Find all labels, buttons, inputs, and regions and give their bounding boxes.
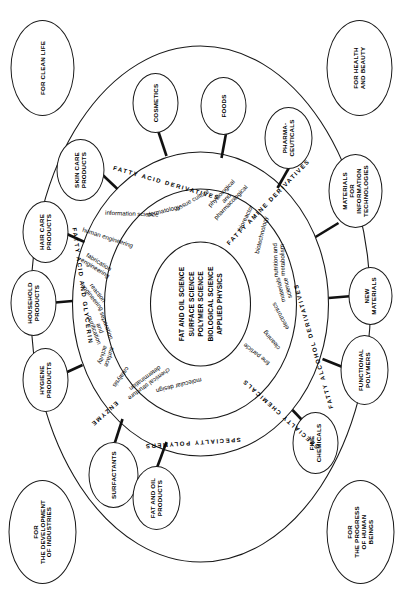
satellite-functional-polymers-label: FUNCTIONAL POLYMERS xyxy=(357,347,371,393)
satellite-cosmetics-label: COSMETICS xyxy=(152,82,159,125)
satellite-pharmaceuticals-label: PHARMA- CEUTICALS xyxy=(281,117,295,158)
satellite-materials-for-it[interactable]: MATERIALS FOR INFORMATION TECHNOLOGIES xyxy=(328,154,382,228)
satellite-foods-label: FOODS xyxy=(220,93,227,120)
connector-cosmetics xyxy=(157,129,166,156)
satellite-new-materials-label: NEW MATERIALS xyxy=(363,275,377,316)
connector-materials-for-it xyxy=(315,223,338,237)
satellite-cosmetics[interactable]: COSMETICS xyxy=(132,73,178,133)
satellite-functional-polymers[interactable]: FUNCTIONAL POLYMERS xyxy=(340,335,388,405)
satellite-hygiene-products-label: HYGIENE PRODUCTS xyxy=(38,360,52,400)
satellite-hair-care-products-label: HAIR CARE PRODUCTS xyxy=(38,212,52,252)
satellite-hygiene-products[interactable]: HYGIENE PRODUCTS xyxy=(22,348,68,412)
satellite-skin-care-products-label: SKIN CARE PRODUCTS xyxy=(73,150,87,190)
core-sciences: FAT AND OIL SCIENCE SURFACE SCIENCE POLY… xyxy=(150,242,250,366)
mid-label-nutrition-metabolism: nutrition and metabolism xyxy=(271,230,286,290)
corner-progress-of-human-beings[interactable]: FOR THE PROGRESS OF HUMAN BEINGS xyxy=(326,480,394,584)
satellite-skin-care-products[interactable]: SKIN CARE PRODUCTS xyxy=(56,139,104,201)
satellite-fat-and-oil-products[interactable]: FAT AND OIL PRODUCTS xyxy=(132,466,180,530)
satellite-new-materials[interactable]: NEW MATERIALS xyxy=(348,267,392,325)
corner-health-and-beauty-label: FOR HEALTH AND BEAUTY xyxy=(352,45,366,92)
satellite-foods[interactable]: FOODS xyxy=(200,77,246,135)
corner-progress-of-human-beings-label: FOR THE PROGRESS OF HUMAN BEINGS xyxy=(346,504,374,560)
satellite-hair-care-products[interactable]: HAIR CARE PRODUCTS xyxy=(22,201,68,263)
corner-clean-life-label: FOR CLEAN LIFE xyxy=(39,39,46,97)
connector-foods xyxy=(221,131,226,158)
satellite-household-products[interactable]: HOUSEHOLD PRODUCTS xyxy=(10,270,56,336)
corner-health-and-beauty[interactable]: FOR HEALTH AND BEAUTY xyxy=(326,20,392,116)
satellite-surfactants[interactable]: SURFACTANTS xyxy=(88,442,138,508)
corner-development-of-industries-label: FOR THE DEVELOPMENT OF INDUSTRIES xyxy=(32,498,53,566)
core-sciences-text: FAT AND OIL SCIENCE SURFACE SCIENCE POLY… xyxy=(176,266,224,341)
corner-clean-life[interactable]: FOR CLEAN LIFE xyxy=(10,20,74,116)
corner-development-of-industries[interactable]: FOR THE DEVELOPMENT OF INDUSTRIES xyxy=(8,480,76,584)
satellite-materials-for-it-label: MATERIALS FOR INFORMATION TECHNOLOGIES xyxy=(341,163,369,219)
diagram-canvas: FAT AND OIL SCIENCE SURFACE SCIENCE POLY… xyxy=(0,0,401,608)
satellite-household-products-label: HOUSEHOLD PRODUCTS xyxy=(26,280,40,325)
satellite-surfactants-label: SURFACTANTS xyxy=(110,449,117,501)
satellite-fat-and-oil-products-label: FAT AND OIL PRODUCTS xyxy=(149,476,163,520)
